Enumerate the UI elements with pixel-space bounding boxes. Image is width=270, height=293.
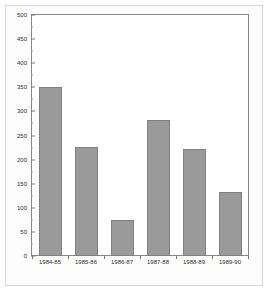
y-axis-tick-label: 100: [17, 205, 27, 211]
bar: [219, 192, 242, 256]
x-axis-tick-label: 1987-88: [140, 259, 176, 265]
x-axis-tick-mark: [68, 256, 69, 259]
y-axis-tick-label: 250: [17, 133, 27, 139]
y-axis-minor-tick-mark: [31, 147, 33, 148]
y-axis-tick-mark: [31, 159, 35, 160]
bar: [39, 87, 62, 256]
bar-series: [32, 15, 248, 256]
x-axis-tick-mark: [248, 256, 249, 259]
x-axis-tick-mark: [104, 256, 105, 259]
x-axis-tick-labels: 1984-851985-861986-871987-881988-891989-…: [32, 259, 248, 273]
y-axis-minor-tick-mark: [31, 219, 33, 220]
plot-area: [32, 15, 248, 256]
y-axis-tick-mark: [31, 87, 35, 88]
y-axis-tick-label: 150: [17, 181, 27, 187]
y-axis-minor-tick-mark: [31, 27, 33, 28]
x-axis-tick-mark: [32, 256, 33, 259]
y-axis-minor-tick-mark: [31, 99, 33, 100]
bar: [147, 120, 170, 256]
bar: [183, 149, 206, 256]
y-axis-tick-mark: [31, 183, 35, 184]
y-axis-tick-label: 200: [17, 157, 27, 163]
x-axis-tick-label: 1984-85: [32, 259, 68, 265]
x-axis-tick-label: 1988-89: [176, 259, 212, 265]
y-axis-tick-mark: [31, 135, 35, 136]
figure: 050100150200250300350400450500 1984-8519…: [0, 0, 270, 293]
y-axis-tick-mark: [31, 207, 35, 208]
y-axis-tick-label: 300: [17, 108, 27, 114]
y-axis-tick-mark: [31, 39, 35, 40]
y-axis-tick-label: 0: [24, 253, 27, 259]
y-axis-tick-mark: [31, 111, 35, 112]
y-axis-minor-tick-mark: [31, 75, 33, 76]
bar: [75, 147, 98, 256]
y-axis-tick-label: 500: [17, 12, 27, 18]
y-axis-minor-tick-mark: [31, 51, 33, 52]
y-axis-minor-tick-mark: [31, 171, 33, 172]
y-axis-tick-label: 50: [20, 229, 27, 235]
x-axis-tick-label: 1986-87: [104, 259, 140, 265]
y-axis-minor-tick-mark: [31, 195, 33, 196]
y-axis-tick-label: 350: [17, 84, 27, 90]
y-axis-tick-mark: [31, 231, 35, 232]
x-axis-tick-label: 1985-86: [68, 259, 104, 265]
x-axis-tick-mark: [140, 256, 141, 259]
x-axis-tick-mark: [212, 256, 213, 259]
y-axis-tick-labels: 050100150200250300350400450500: [0, 15, 27, 256]
y-axis-tick-mark: [31, 63, 35, 64]
x-axis-tick-mark: [176, 256, 177, 259]
bar: [111, 220, 134, 256]
y-axis-tick-label: 400: [17, 60, 27, 66]
y-axis-tick-label: 450: [17, 36, 27, 42]
y-axis-minor-tick-mark: [31, 123, 33, 124]
y-axis-minor-tick-mark: [31, 243, 33, 244]
x-axis-tick-label: 1989-90: [212, 259, 248, 265]
y-axis-tick-mark: [31, 15, 35, 16]
